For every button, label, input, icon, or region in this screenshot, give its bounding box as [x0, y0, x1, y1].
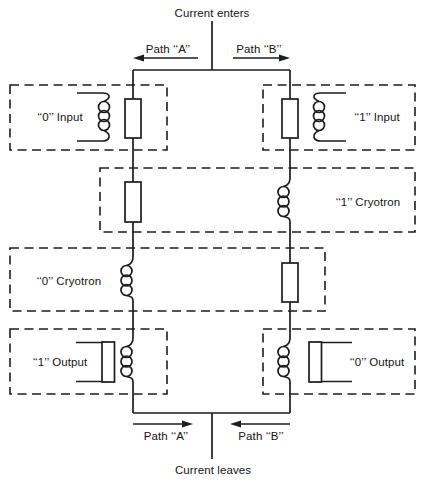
path-a-label-top: Path ‘‘A’’	[146, 43, 190, 55]
diagram-svg: Current enters Path ‘‘A’’ Path ‘‘B’’	[0, 0, 426, 485]
output-0-coil-icon	[278, 338, 290, 382]
cryotron-1-label: ‘‘1’’ Cryotron	[336, 196, 400, 208]
cryotron-0-label: ‘‘0’’ Cryotron	[37, 275, 101, 287]
stage-cryotron-0: ‘‘0’’ Cryotron	[10, 248, 325, 311]
output-1-coil-icon	[121, 338, 133, 382]
output-1-gate-icon	[102, 342, 115, 382]
output-1-label: ‘‘1’’ Output	[33, 356, 88, 368]
input-0-label: ‘‘0’’ Input	[37, 111, 83, 123]
cryotron-0-gate-icon	[282, 263, 298, 302]
stage-inputs: ‘‘0’’ Input ‘‘1’’ Input	[10, 85, 415, 150]
arrow-head-left	[230, 421, 241, 428]
current-leaves-label: Current leaves	[175, 464, 251, 476]
input-1-label: ‘‘1’’ Input	[354, 111, 400, 123]
cryotron-0-coil-icon	[121, 257, 133, 301]
stage-outputs: ‘‘1’’ Output ‘‘0’’ Output	[10, 329, 415, 394]
path-a-label-bottom: Path ‘‘A’’	[144, 430, 188, 442]
path-a-arrow-top	[133, 55, 198, 62]
output-0-gate-icon	[309, 342, 322, 382]
cryotron-circuit-diagram: Current enters Path ‘‘A’’ Path ‘‘B’’	[0, 0, 426, 485]
input-0-gate-icon	[125, 99, 141, 138]
stage-cryotron-1: ‘‘1’’ Cryotron	[100, 168, 415, 232]
arrow-head-right	[279, 55, 290, 62]
input-1-control-coil-icon	[314, 93, 347, 141]
current-enters-label: Current enters	[175, 7, 250, 19]
cryotron-1-gate-icon	[125, 182, 141, 222]
path-b-arrow-bottom	[230, 421, 290, 428]
path-a-arrow-bottom	[133, 421, 193, 428]
arrow-head-right	[182, 421, 193, 428]
cryotron-1-coil-icon	[278, 178, 290, 222]
path-b-arrow-top	[233, 55, 290, 62]
arrow-head-left	[133, 55, 144, 62]
input-1-gate-icon	[282, 99, 298, 138]
path-b-label-bottom: Path ‘‘B’’	[238, 430, 283, 442]
path-b-label-top: Path ‘‘B’’	[236, 43, 281, 55]
output-0-label: ‘‘0’’ Output	[350, 356, 405, 368]
